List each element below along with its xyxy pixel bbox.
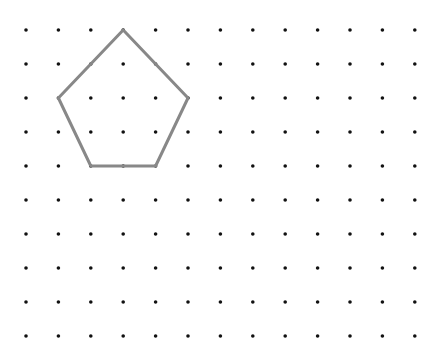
grid-dot [381, 232, 385, 236]
grid-dot [381, 164, 385, 168]
grid-dot [186, 130, 190, 134]
grid-dot [316, 96, 320, 100]
grid-dot [381, 266, 385, 270]
grid-dot [251, 266, 255, 270]
grid-dot [251, 130, 255, 134]
grid-dot [57, 62, 61, 66]
grid-dot [348, 164, 352, 168]
grid-dot [251, 232, 255, 236]
grid-dot [24, 232, 28, 236]
grid-dot [57, 300, 61, 304]
grid-dot [283, 266, 287, 270]
grid-dot [348, 334, 352, 338]
grid-dot [251, 300, 255, 304]
grid-dot [251, 96, 255, 100]
grid-dot [89, 198, 93, 202]
grid-dot [89, 232, 93, 236]
dot-grid-diagram [0, 0, 442, 354]
grid-dot [57, 198, 61, 202]
grid-dot [348, 96, 352, 100]
grid-dot [121, 232, 125, 236]
grid-dot [57, 164, 61, 168]
grid-dot [89, 130, 93, 134]
grid-dot [413, 164, 417, 168]
grid-dot [251, 164, 255, 168]
grid-dot [413, 28, 417, 32]
grid-dot [316, 300, 320, 304]
grid-dot [154, 300, 158, 304]
grid-dot [121, 300, 125, 304]
grid-dot [219, 130, 223, 134]
grid-dot [186, 198, 190, 202]
grid-dot [413, 232, 417, 236]
grid-dot [381, 130, 385, 134]
grid-dot [413, 300, 417, 304]
grid-dot [283, 62, 287, 66]
grid-dot [251, 62, 255, 66]
grid-dot [24, 266, 28, 270]
grid-dot [186, 334, 190, 338]
grid-dot [316, 198, 320, 202]
grid-dot [121, 62, 125, 66]
grid-dot [121, 266, 125, 270]
grid-dot [348, 266, 352, 270]
grid-dot [283, 164, 287, 168]
grid-dot [413, 266, 417, 270]
grid-dot [57, 232, 61, 236]
grid-dot [154, 28, 158, 32]
grid-dot [219, 232, 223, 236]
grid-dot [24, 300, 28, 304]
grid-dot [121, 130, 125, 134]
grid-dot [89, 28, 93, 32]
grid-dot [219, 62, 223, 66]
grid-dot [413, 96, 417, 100]
grid-dot [154, 266, 158, 270]
grid-dot [283, 96, 287, 100]
grid-dot [381, 62, 385, 66]
grid-dot [283, 232, 287, 236]
grid-dot [24, 28, 28, 32]
grid-dot [24, 96, 28, 100]
grid-dot [154, 232, 158, 236]
grid-dot [316, 334, 320, 338]
grid-dot [219, 300, 223, 304]
grid-dot [413, 334, 417, 338]
grid-dot [57, 28, 61, 32]
grid-dot [381, 334, 385, 338]
grid-dot [154, 334, 158, 338]
grid-dot [413, 62, 417, 66]
grid-dot [121, 334, 125, 338]
grid-dot [283, 300, 287, 304]
grid-dot [57, 266, 61, 270]
grid-dot [381, 28, 385, 32]
grid-dot [24, 334, 28, 338]
grid-dot [348, 28, 352, 32]
grid-dot [186, 28, 190, 32]
grid-dot [413, 130, 417, 134]
grid-dot [283, 130, 287, 134]
grid-dot [57, 334, 61, 338]
grid-dot [57, 130, 61, 134]
grid-dot [316, 28, 320, 32]
grid-dot [219, 164, 223, 168]
grid-dot [154, 198, 158, 202]
dot-grid [24, 28, 416, 338]
grid-dot [316, 62, 320, 66]
grid-dot [121, 198, 125, 202]
grid-dot [219, 28, 223, 32]
grid-dot [219, 266, 223, 270]
grid-dot [316, 232, 320, 236]
grid-dot [89, 266, 93, 270]
grid-dot [89, 334, 93, 338]
grid-dot [24, 164, 28, 168]
grid-dot [186, 300, 190, 304]
grid-dot [348, 232, 352, 236]
grid-dot [251, 198, 255, 202]
grid-dot [186, 266, 190, 270]
grid-dot [219, 96, 223, 100]
grid-dot [186, 62, 190, 66]
grid-dot [413, 198, 417, 202]
grid-dot [381, 300, 385, 304]
grid-dot [24, 62, 28, 66]
grid-dot [283, 334, 287, 338]
